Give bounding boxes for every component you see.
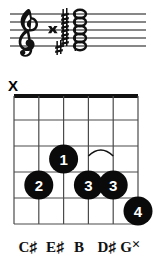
mute-marker-x: X <box>8 77 18 94</box>
finger-dot: 3 <box>74 171 103 200</box>
note-label: D ♯ <box>98 239 117 255</box>
svg-text:E: E <box>46 239 56 255</box>
nut-bar <box>14 94 138 98</box>
chord-reference-figure: X <box>0 0 153 265</box>
note-label: E ♯ <box>46 239 64 255</box>
guitar-chord-diagram: X <box>0 72 153 265</box>
svg-text:C: C <box>19 239 30 255</box>
svg-text:×: × <box>132 236 141 252</box>
finger-dot: 1 <box>49 145 78 174</box>
finger-dot: 3 <box>99 171 128 200</box>
chord-diagram-svg: X <box>0 72 153 265</box>
sharp-accidentals-group <box>55 8 69 55</box>
svg-text:♯: ♯ <box>29 239 37 255</box>
music-notation-staff <box>0 0 153 72</box>
finger-dot: 2 <box>24 171 53 200</box>
svg-text:G: G <box>120 239 132 255</box>
finger-dot-label: 2 <box>35 177 43 194</box>
finger-dot-label: 4 <box>134 203 143 220</box>
finger-dot-label: 1 <box>59 151 67 168</box>
svg-text:♯: ♯ <box>108 239 116 255</box>
svg-text:B: B <box>74 239 84 255</box>
sharp-icon <box>61 8 69 23</box>
svg-text:♯: ♯ <box>56 239 64 255</box>
finger-dot-label: 3 <box>84 177 92 194</box>
barre-arc <box>88 150 113 156</box>
note-name-row: C ♯ E ♯ B D ♯ G × <box>19 236 141 255</box>
staff-svg <box>0 0 153 72</box>
note-label: G × <box>120 236 140 255</box>
finger-dot-label: 3 <box>109 177 117 194</box>
note-label: C ♯ <box>19 239 38 255</box>
finger-dot: 4 <box>124 197 153 226</box>
sharp-icon <box>55 40 63 55</box>
note-label: B <box>74 239 84 255</box>
treble-clef-icon <box>19 9 38 57</box>
svg-text:D: D <box>98 239 109 255</box>
